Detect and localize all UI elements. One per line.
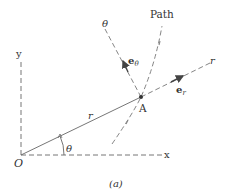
e-r-label: er [176,84,186,97]
point-a [139,95,143,99]
path-curve [112,26,162,144]
point-a-label: A [138,102,147,114]
figure-caption: (a) [109,178,123,189]
origin-label: O [14,157,23,170]
e-r-sub: r [182,89,186,97]
e-theta-sub: θ [134,60,139,68]
radius-label: r [88,110,94,121]
path-label: Path [150,8,174,20]
radius-line [21,97,141,155]
transverse-axis-label: θ [102,18,108,29]
angle-arc [60,136,64,155]
e-theta-label: eθ [128,55,139,68]
y-axis-label: y [15,48,22,59]
e-r-arrow [171,76,183,82]
angle-label: θ [66,143,72,154]
polar-coordinates-diagram: O x y r θ Path A r θ eθ er (a) [0,0,231,195]
radial-axis-label: r [210,55,216,66]
x-axis-label: x [164,149,170,160]
